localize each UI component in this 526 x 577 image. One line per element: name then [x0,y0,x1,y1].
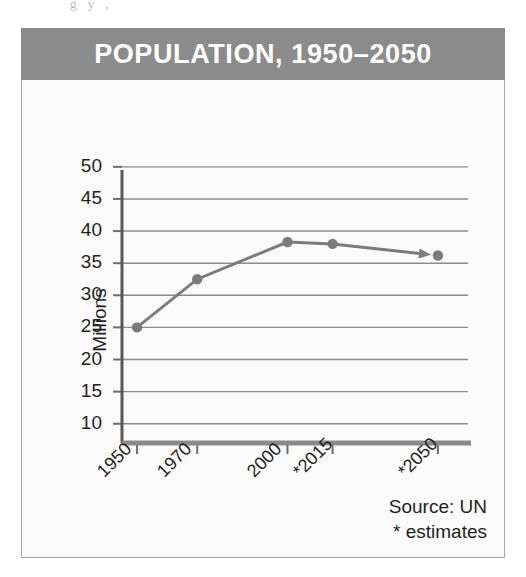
source-line-1: Source: UN [389,495,487,519]
data-point-marker [433,250,443,260]
y-tick-label: 35 [50,251,102,273]
page-title: POPULATION, 1950–2050 [94,39,432,70]
y-tick-label: 10 [50,412,102,434]
source-note: Source: UN * estimates [389,495,487,544]
gridlines-group [122,167,468,424]
source-line-2: * estimates [389,520,487,544]
data-point-marker [192,274,202,284]
scan-artifact-text: g y , [0,0,526,14]
series-line [137,242,422,327]
series-arrowhead [419,248,432,258]
y-tick-label: 45 [50,187,102,209]
y-tick-label: 20 [50,348,102,370]
data-point-marker [132,322,142,332]
y-tick-label: 50 [50,155,102,177]
plot-area: Millions 504540353025201510 195019702000… [21,80,505,558]
y-tick-label: 15 [50,380,102,402]
population-chart-figure: POPULATION, 1950–2050 Millions 504540353… [21,28,505,558]
y-tick-label: 30 [50,283,102,305]
y-tick-label: 25 [50,315,102,337]
y-tick-label: 40 [50,219,102,241]
chart-title-band: POPULATION, 1950–2050 [21,28,505,80]
data-point-marker [282,237,292,247]
data-point-marker [327,239,337,249]
